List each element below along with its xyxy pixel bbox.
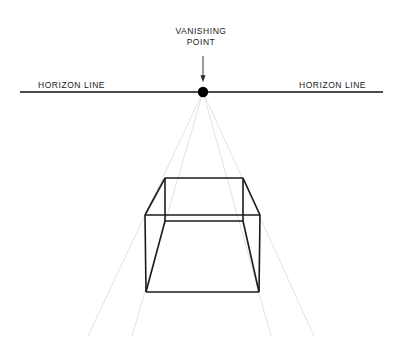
vanishing-point-label-line2: POINT xyxy=(0,37,402,48)
guide-lines-group xyxy=(88,92,314,336)
horizon-line-label-left: HORIZON LINE xyxy=(38,80,105,91)
cube-edge-top-left xyxy=(145,178,165,215)
perspective-diagram: VANISHING POINT HORIZON LINE HORIZON LIN… xyxy=(0,0,402,355)
guide-line-outer-right xyxy=(203,92,314,336)
vanishing-point-label-line1: VANISHING xyxy=(175,26,226,36)
vanishing-point-dot xyxy=(198,87,208,97)
horizon-line-label-right: HORIZON LINE xyxy=(299,80,366,91)
cube-front-left-edge xyxy=(145,215,146,292)
vanishing-point-label: VANISHING POINT xyxy=(0,26,402,48)
guide-line-inner-right xyxy=(203,92,271,336)
guide-line-inner-left xyxy=(132,92,203,336)
cube-front-right-edge xyxy=(259,215,260,292)
cube-edge-bottom-right xyxy=(243,221,259,292)
vanishing-point-arrow-icon xyxy=(201,56,206,82)
perspective-drawing-canvas xyxy=(0,0,402,355)
cube-edge-bottom-left xyxy=(146,221,165,292)
cube-edge-top-right xyxy=(243,178,260,215)
cube-front-face xyxy=(145,215,260,292)
